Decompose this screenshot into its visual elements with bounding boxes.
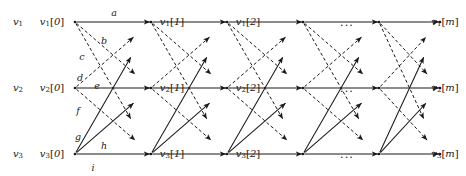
- edge-stage2-r2to1: [229, 103, 286, 153]
- node-dot-c4-r1: [378, 87, 381, 90]
- edge-stage0-r1to2: [77, 89, 136, 140]
- node-label-v1-m: v1[m]: [431, 16, 458, 29]
- edge-stage3-r2to1: [305, 103, 362, 153]
- edge-stage3-r1to2: [305, 89, 364, 140]
- edge-label-h: h: [101, 140, 107, 151]
- node-label-v1-1: v1[1]: [160, 16, 184, 29]
- edge-stage4-r2to1: [380, 103, 426, 152]
- node-label-v2-0: v2[0]: [40, 82, 64, 95]
- ellipsis-row-1: ...: [340, 16, 354, 29]
- node-label-v3-m: v3[m]: [431, 148, 458, 161]
- edge-label-g: g: [75, 131, 81, 142]
- node-dot-c2-r1: [226, 87, 229, 90]
- node-dot-c0-r1: [74, 87, 77, 90]
- node-dot-c1-r1: [150, 87, 153, 90]
- row-name-v2: v2: [13, 82, 23, 95]
- node-label-v2-1: v2[1]: [160, 82, 184, 95]
- node-dot-c4-r0: [378, 21, 381, 24]
- node-dot-c3-r2: [302, 153, 305, 156]
- edge-stage2-r2to0: [228, 57, 283, 152]
- edge-label-i: i: [91, 162, 94, 173]
- row-name-v3: v3: [13, 148, 23, 161]
- edge-label-c: c: [79, 51, 84, 62]
- node-dot-c4-r2: [378, 153, 381, 156]
- node-dot-c0-r2: [74, 153, 77, 156]
- node-label-v2-m: v2[m]: [431, 82, 458, 95]
- node-dot-c0-r0: [74, 21, 77, 24]
- node-label-v2-2: v2[2]: [236, 82, 260, 95]
- ellipsis-row-2: ...: [340, 82, 354, 95]
- edge-stage4-r0to1: [380, 23, 427, 74]
- node-dot-c2-r2: [226, 153, 229, 156]
- node-dot-c1-r0: [150, 21, 153, 24]
- edge-label-b: b: [101, 35, 107, 46]
- edge-stage1-r2to1: [153, 103, 210, 153]
- edge-stage4-r1to2: [380, 89, 427, 140]
- edge-stage0-r0to1: [77, 23, 136, 74]
- node-dot-c1-r2: [150, 153, 153, 156]
- row-name-v1: v1: [13, 16, 23, 29]
- trellis-graph-svg: [0, 0, 466, 176]
- edge-stage2-r1to0: [229, 37, 286, 87]
- node-label-v3-2: v3[2]: [236, 148, 260, 161]
- edge-stage3-r2to0: [304, 57, 359, 152]
- edge-label-a: a: [111, 7, 117, 18]
- edge-stage2-r1to2: [229, 89, 288, 140]
- edge-label-f: f: [76, 105, 80, 116]
- node-label-v1-0: v1[0]: [40, 16, 64, 29]
- edge-stage3-r1to0: [305, 37, 362, 87]
- edge-label-d: d: [77, 72, 83, 83]
- edge-stage1-r1to2: [153, 89, 212, 140]
- edge-stage2-r0to1: [229, 23, 288, 74]
- node-dot-c3-r0: [302, 21, 305, 24]
- node-label-v1-2: v1[2]: [236, 16, 260, 29]
- edge-stage0-r2to0: [76, 57, 131, 152]
- edge-stage3-r0to1: [305, 23, 364, 74]
- node-dot-c3-r1: [302, 87, 305, 90]
- edge-stage1-r0to1: [153, 23, 212, 74]
- edge-label-e: e: [94, 80, 100, 91]
- edge-stage4-r1to0: [380, 37, 426, 86]
- node-dot-c2-r0: [226, 21, 229, 24]
- node-label-v3-1: v3[1]: [160, 148, 184, 161]
- node-label-v3-0: v3[0]: [40, 148, 64, 161]
- ellipsis-row-3: ...: [340, 148, 354, 161]
- figure-canvas: v1v2v3v1[0]v2[0]v3[0]v1[1]v2[1]v3[1]v1[2…: [0, 0, 466, 176]
- edge-stage1-r2to0: [152, 57, 207, 152]
- edge-stage1-r1to0: [153, 37, 210, 87]
